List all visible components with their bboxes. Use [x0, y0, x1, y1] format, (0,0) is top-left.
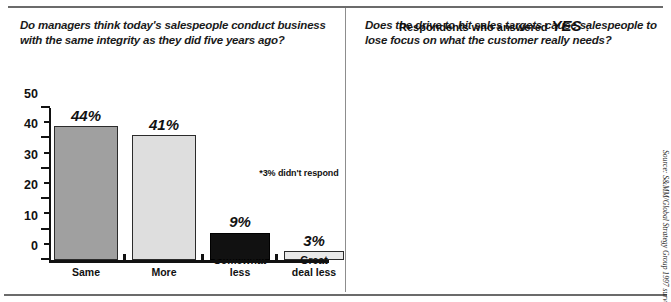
- left-chart-plot: 0 10 20 30 40 50 44% Same: [50, 108, 325, 260]
- left-category-somewhat-less: Somewhat less: [198, 255, 282, 278]
- bottom-divider-rule: [4, 294, 667, 296]
- left-ytick-label-50: 50: [24, 87, 38, 101]
- left-axis-separator-1: [123, 254, 126, 263]
- left-category-great-deal-less-line2: deal less: [272, 267, 356, 279]
- left-ytick-10: [41, 228, 50, 230]
- left-category-great-deal-less-line1: Great: [272, 255, 356, 267]
- left-bar-value-great-deal-less: 3%: [284, 232, 344, 249]
- right-subtitle-suffix: :: [586, 21, 590, 33]
- left-ytick-40: [41, 136, 50, 138]
- left-ytick-label-0: 0: [31, 239, 38, 253]
- left-bar-series: 44% Same 41% More 9%: [50, 108, 325, 260]
- left-ytick-label-20: 20: [24, 178, 38, 192]
- left-ytick-label-30: 30: [24, 148, 38, 162]
- left-ytick-0: [41, 258, 50, 260]
- right-subtitle-prefix: Respondents who answered: [399, 21, 548, 33]
- left-ytick-30: [41, 167, 50, 169]
- left-ytick-label-40: 40: [24, 117, 38, 131]
- left-category-great-deal-less: Great deal less: [272, 255, 356, 278]
- left-ytick-label-10: 10: [24, 209, 38, 223]
- left-category-more: More: [122, 267, 206, 279]
- panel-divider: [345, 8, 346, 292]
- left-bar-same[interactable]: [54, 126, 118, 260]
- left-panel: Do managers think today's salespeople co…: [8, 8, 345, 290]
- left-category-same: Same: [44, 267, 128, 279]
- right-subtitle-emphasis: YES: [552, 17, 582, 34]
- left-bar-value-same: 44%: [54, 107, 118, 124]
- left-bar-more[interactable]: [132, 135, 196, 260]
- left-ytick-20: [41, 197, 50, 199]
- right-chart-subtitle: Respondents who answered YES :: [399, 17, 589, 34]
- left-ytick-50: [41, 106, 50, 108]
- left-category-somewhat-less-line2: less: [198, 267, 282, 279]
- left-category-more-line1: More: [122, 267, 206, 279]
- source-credit: Source: S&MM/Global Strategy Group 1997 …: [661, 150, 670, 302]
- left-category-same-line1: Same: [44, 267, 128, 279]
- left-bar-value-somewhat-less: 9%: [210, 213, 270, 230]
- left-category-somewhat-less-line1: Somewhat: [198, 255, 282, 267]
- left-question-title: Do managers think today's salespeople co…: [20, 18, 339, 48]
- infographic-page: Do managers think today's salespeople co…: [0, 0, 671, 302]
- right-panel: Does the drive to hit sales targets caus…: [347, 8, 663, 290]
- left-bar-value-more: 41%: [132, 116, 196, 133]
